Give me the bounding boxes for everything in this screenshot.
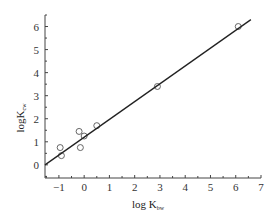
- y-tick-label: 5: [34, 44, 40, 56]
- axes: [45, 15, 261, 178]
- y-tick-label: 4: [34, 67, 40, 79]
- x-tick-label: 1: [107, 181, 113, 193]
- x-tick-label: 0: [81, 181, 87, 193]
- x-tick-label: 4: [182, 181, 188, 193]
- regression-line: [45, 20, 251, 165]
- data-point: [57, 145, 63, 151]
- y-tick-label: 2: [34, 113, 40, 125]
- x-tick-label: 6: [233, 181, 239, 193]
- x-tick-label: 3: [157, 181, 163, 193]
- y-tick-label: 6: [34, 21, 40, 33]
- x-tick-label: 7: [258, 181, 264, 193]
- ticks: −1012345670123456: [34, 15, 265, 193]
- y-tick-label: 3: [34, 90, 40, 102]
- data-point: [77, 145, 83, 151]
- y-axis-label: logKcw: [14, 103, 27, 133]
- x-tick-label: 5: [208, 181, 214, 193]
- y-tick-label: 0: [34, 159, 40, 171]
- scatter-chart: −1012345670123456 log Kbw logKcw: [0, 0, 275, 222]
- x-tick-label: −1: [53, 181, 65, 193]
- x-axis-label: log Kbw: [132, 198, 165, 211]
- x-tick-label: 2: [132, 181, 138, 193]
- y-tick-label: 1: [34, 136, 40, 148]
- data-point: [76, 128, 82, 134]
- plot-area: [45, 20, 251, 165]
